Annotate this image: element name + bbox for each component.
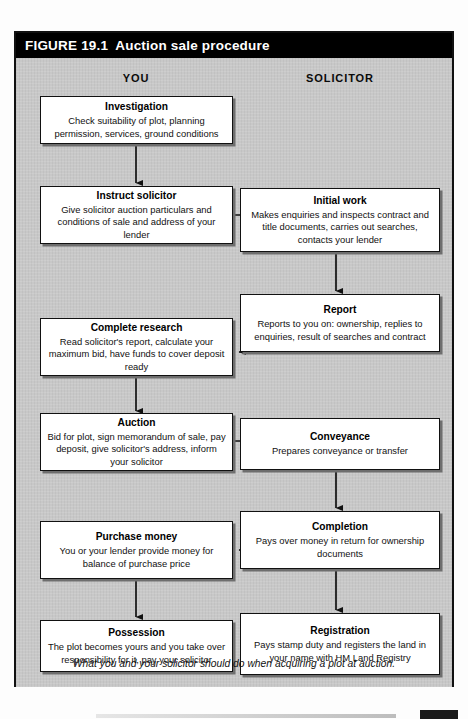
flow-node-heading: Registration [310,624,369,638]
flow-node-body: Pays over money in return for ownership … [247,535,433,560]
flow-node-initial-work[interactable]: Initial work Makes enquiries and inspect… [240,188,440,252]
flow-node-heading: Instruct solicitor [97,189,177,203]
flow-node-purchase-money[interactable]: Purchase money You or your lender provid… [40,521,233,579]
column-heading-you: YOU [40,72,232,84]
figure-caption: What you and your solicitor should do wh… [16,658,452,669]
flow-node-heading: Auction [118,416,156,430]
flow-node-body: Makes enquiries and inspects contract an… [247,209,433,246]
flow-node-body: You or your lender provide money for bal… [47,545,226,570]
figure-frame: FIGURE 19.1Auction sale procedure YOU SO… [14,31,454,687]
flow-node-heading: Complete research [91,321,183,335]
flow-node-body: Check suitability of plot, planning perm… [47,115,226,140]
figure-number: FIGURE 19.1 [25,38,108,53]
flowchart-canvas: YOU SOLICITOR [16,58,452,687]
flow-node-complete-research[interactable]: Complete research Read solicitor's repor… [40,318,233,376]
flow-node-body: Reports to you on: ownership, replies to… [247,318,433,343]
flow-node-body: Read solicitor's report, calculate your … [47,336,226,373]
page-number-block [420,710,458,719]
flow-node-heading: Investigation [105,100,168,114]
flow-node-instruct-solicitor[interactable]: Instruct solicitor Give solicitor auctio… [40,186,233,244]
footer-rule [96,714,396,718]
flow-node-body: Prepares conveyance or transfer [272,445,408,457]
figure-title-text: Auction sale procedure [115,38,269,53]
flow-node-heading: Initial work [313,194,366,208]
flow-node-report[interactable]: Report Reports to you on: ownership, rep… [240,294,440,352]
flow-node-conveyance[interactable]: Conveyance Prepares conveyance or transf… [240,418,440,470]
flow-node-heading: Report [324,303,357,317]
page-footer-artifact [0,707,468,719]
figure-title-bar: FIGURE 19.1Auction sale procedure [16,33,452,58]
flow-node-heading: Purchase money [96,530,178,544]
flow-node-heading: Possession [108,626,165,640]
flow-node-investigation[interactable]: Investigation Check suitability of plot,… [40,96,233,144]
flow-node-heading: Conveyance [310,430,370,444]
flow-node-auction[interactable]: Auction Bid for plot, sign memorandum of… [40,413,233,471]
flow-node-completion[interactable]: Completion Pays over money in return for… [240,511,440,569]
column-heading-solicitor: SOLICITOR [240,72,440,84]
flow-node-body: Bid for plot, sign memorandum of sale, p… [47,431,226,468]
flow-node-heading: Completion [312,520,368,534]
flow-node-body: Give solicitor auction particulars and c… [47,204,226,241]
figure-title: FIGURE 19.1Auction sale procedure [16,38,270,53]
